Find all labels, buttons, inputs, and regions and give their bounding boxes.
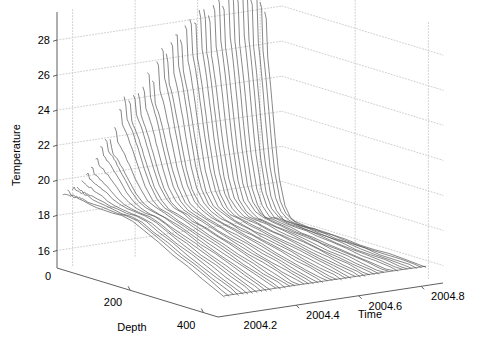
tick-temperature-24: 24 [38, 104, 50, 116]
axis-title-depth: Depth [117, 321, 146, 333]
tick-temperature-26: 26 [38, 69, 50, 81]
tick-temperature-16: 16 [38, 245, 50, 257]
mesh-profile-lines [63, 0, 426, 297]
profile-line [265, 12, 426, 267]
axis-title-temperature: Temperature [10, 124, 22, 186]
tick-temperature-18: 18 [38, 209, 50, 221]
tick-temperature-22: 22 [38, 139, 50, 151]
axis-lines [57, 12, 443, 317]
tick-depth-400: 400 [177, 319, 195, 331]
tick-depth-0: 0 [45, 270, 51, 282]
figure-canvas: 1618202224262802004002004.22004.42004.62… [0, 0, 490, 352]
tick-time-2004.8: 2004.8 [431, 290, 465, 302]
tick-temperature-20: 20 [38, 174, 50, 186]
tick-depth-200: 200 [104, 296, 122, 308]
profile-line [68, 190, 229, 296]
tick-temperature-28: 28 [38, 34, 50, 46]
profile-line [190, 20, 351, 279]
grid-lines [57, 0, 443, 279]
axis-title-time: Time [358, 308, 382, 320]
profile-line [105, 139, 266, 291]
profile-line [91, 167, 252, 293]
profile-line [143, 87, 304, 284]
profile-line [129, 101, 290, 286]
tick-time-2004.4: 2004.4 [306, 309, 340, 321]
tick-time-2004.2: 2004.2 [244, 319, 278, 331]
profile-line [237, 0, 398, 271]
profile-line [246, 0, 407, 269]
waterfall-3d-chart: 1618202224262802004002004.22004.42004.62… [0, 0, 490, 352]
